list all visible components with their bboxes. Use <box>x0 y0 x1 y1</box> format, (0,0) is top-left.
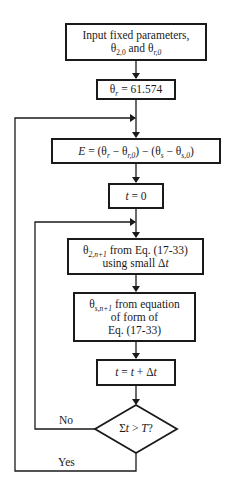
time-init-box: t = 0 <box>108 183 164 209</box>
thetas-step-box: θs,n+1 from equation of form of Eq. (17-… <box>73 292 196 342</box>
no-branch-label: No <box>59 414 73 426</box>
time-increment-box: t = t + Δt <box>96 359 176 386</box>
yes-branch-label: Yes <box>58 456 75 468</box>
decision-condition: Σt > T? <box>95 422 177 434</box>
input-line-1: Input fixed parameters, <box>83 29 190 42</box>
input-parameters-box: Input fixed parameters, θ2,0 and θr,0 <box>65 23 207 61</box>
theta2-step-box: θ2,n+1 from Eq. (17-33) using small Δt <box>67 238 204 275</box>
input-line-2: θ2,0 and θr,0 <box>111 42 161 55</box>
theta-r-box: θr = 61.574 <box>96 79 176 100</box>
error-equation-box: E = (θr − θr,0) − (θs − θs,0) <box>51 138 221 164</box>
